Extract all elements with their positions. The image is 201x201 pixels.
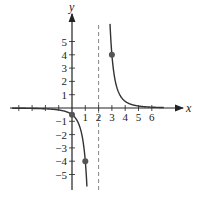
x-tick-label: 6	[149, 111, 155, 123]
y-tick-label: 3	[62, 62, 68, 74]
x-tick-label: 4	[122, 111, 128, 123]
x-tick-label: 3	[109, 111, 115, 123]
x-tick-label: 1	[83, 111, 89, 123]
curve-left-branch	[12, 108, 87, 186]
curve-right-branch	[110, 24, 164, 108]
y-tick-label: −1	[55, 115, 67, 127]
x-tick-label: 5	[136, 111, 142, 123]
y-tick-label: 2	[62, 75, 68, 87]
y-tick-label: 1	[62, 89, 68, 101]
function-graph: 12345654321−1−2−3−4−5 x y	[0, 0, 201, 201]
x-tick-label: 2	[96, 111, 102, 123]
x-axis-title: x	[185, 101, 192, 115]
data-point	[82, 158, 88, 164]
y-tick-label: 4	[62, 49, 68, 61]
y-tick-label: 5	[62, 36, 68, 48]
y-tick-label: −4	[55, 155, 67, 167]
y-axis-title: y	[68, 0, 75, 14]
y-tick-label: −5	[55, 169, 67, 181]
y-tick-label: −3	[55, 142, 67, 154]
y-tick-label: −2	[55, 129, 67, 141]
data-point	[69, 112, 75, 118]
data-point	[109, 52, 115, 58]
